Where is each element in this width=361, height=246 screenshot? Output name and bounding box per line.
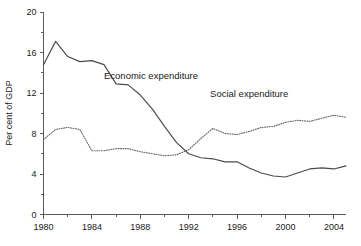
x-tick-label: 1988 <box>130 222 150 232</box>
data-series-group <box>44 41 347 177</box>
chart-container: 048121620 1980198419881992199620002004 P… <box>0 0 361 246</box>
series-annotations: Economic expenditureSocial expenditure <box>104 70 288 99</box>
x-tick-label: 1984 <box>82 222 102 232</box>
y-tick-label: 4 <box>31 169 36 179</box>
y-axis-tick-labels: 048121620 <box>26 7 36 220</box>
series-label-1: Economic expenditure <box>104 70 198 81</box>
x-tick-label: 1996 <box>227 222 247 232</box>
x-tick-label: 2000 <box>275 222 295 232</box>
series-line-1 <box>44 41 347 177</box>
y-tick-label: 20 <box>26 7 36 17</box>
x-tick-label: 1992 <box>179 222 199 232</box>
x-axis-ticks <box>44 215 334 219</box>
y-tick-label: 16 <box>26 48 36 58</box>
y-tick-label: 8 <box>31 129 36 139</box>
x-axis-tick-labels: 1980198419881992199620002004 <box>33 222 343 232</box>
series-label-2: Social expenditure <box>210 88 288 99</box>
line-chart: 048121620 1980198419881992199620002004 P… <box>0 0 361 246</box>
axes <box>44 12 347 215</box>
y-axis-title: Per cent of GDP <box>4 80 14 146</box>
x-tick-label: 2004 <box>324 222 344 232</box>
y-tick-label: 12 <box>26 88 36 98</box>
series-line-2 <box>44 115 347 156</box>
x-tick-label: 1980 <box>33 222 53 232</box>
y-tick-label: 0 <box>31 210 36 220</box>
